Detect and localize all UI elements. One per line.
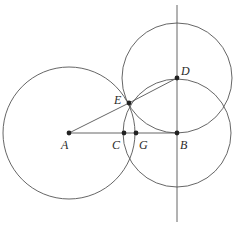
point-b bbox=[175, 131, 180, 136]
point-g bbox=[134, 131, 139, 136]
label-e: E bbox=[113, 93, 122, 107]
geometry-diagram: A B C D E G bbox=[0, 0, 238, 226]
label-g: G bbox=[139, 138, 148, 152]
label-a: A bbox=[60, 138, 69, 152]
segment-ae bbox=[69, 103, 129, 133]
segment-ed bbox=[129, 78, 177, 103]
point-e bbox=[127, 101, 132, 106]
label-c: C bbox=[112, 138, 121, 152]
label-d: D bbox=[180, 64, 190, 78]
label-b: B bbox=[180, 138, 188, 152]
point-d bbox=[175, 76, 180, 81]
point-c bbox=[122, 131, 127, 136]
point-a bbox=[67, 131, 72, 136]
